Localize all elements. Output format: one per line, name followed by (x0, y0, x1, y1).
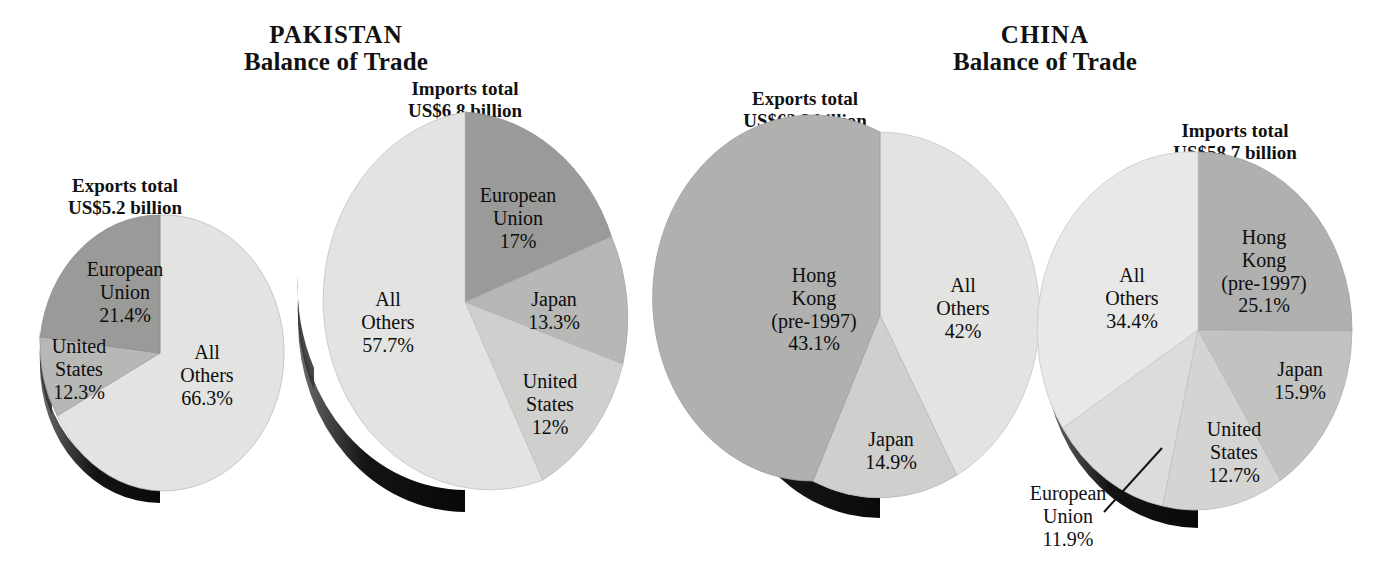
china-imports-label-european-union: European Union 11.9% (1000, 482, 1136, 550)
label-line-2: States (28, 358, 130, 381)
china-exports-label-hong-kong: Hong Kong (pre-1997) 43.1% (742, 264, 886, 355)
china-title-subtitle: Balance of Trade (865, 49, 1225, 76)
pakistan-title: PAKISTAN Balance of Trade (156, 22, 516, 75)
label-line-1: Hong (742, 264, 886, 287)
label-line-1: European (1000, 482, 1136, 505)
label-line-1: United (496, 370, 604, 393)
label-line-2: States (496, 393, 604, 416)
china-exports-label-japan: Japan 14.9% (836, 428, 946, 474)
label-line-2: Kong (1190, 249, 1338, 272)
label-line-2: Others (1074, 287, 1190, 310)
pakistan-exports-label-all-others: All Others 66.3% (154, 341, 260, 409)
pakistan-exports-total-caption: Exports total US$5.2 billion (10, 175, 240, 220)
pakistan-imports-label-japan: Japan 13.3% (502, 288, 606, 334)
label-value: 14.9% (836, 451, 946, 474)
label-value: 12.7% (1178, 464, 1290, 487)
label-value: 43.1% (742, 332, 886, 355)
label-line-3: (pre-1997) (1190, 272, 1338, 295)
label-line-1: United (1178, 418, 1290, 441)
label-line-2: Others (908, 297, 1018, 320)
label-line-1: All (330, 288, 446, 311)
pakistan-imports-label-all-others: All Others 57.7% (330, 288, 446, 356)
pakistan-imports-label-european-union: European Union 17% (454, 184, 582, 252)
china-title: CHINA Balance of Trade (865, 22, 1225, 75)
china-exports-label-all-others: All Others 42% (908, 274, 1018, 342)
pakistan-exports-label-united-states: United States 12.3% (28, 335, 130, 403)
label-value: 66.3% (154, 387, 260, 410)
label-line-1: All (908, 274, 1018, 297)
infographic-canvas: PAKISTAN Balance of Trade CHINA Balance … (0, 0, 1383, 586)
china-imports-label-all-others: All Others 34.4% (1074, 264, 1190, 332)
label-value: 34.4% (1074, 310, 1190, 333)
label-value: 17% (454, 230, 582, 253)
label-line-1: All (1074, 264, 1190, 287)
label-value: 25.1% (1190, 294, 1338, 317)
label-value: 42% (908, 320, 1018, 343)
label-line-2: Others (330, 311, 446, 334)
label-line-1: Japan (502, 288, 606, 311)
label-line-2: States (1178, 441, 1290, 464)
china-imports-label-hong-kong: Hong Kong (pre-1997) 25.1% (1190, 226, 1338, 317)
pakistan-exports-label-european-union: European Union 21.4% (60, 258, 190, 326)
pakistan-title-subtitle: Balance of Trade (156, 49, 516, 76)
label-line-2: Union (454, 207, 582, 230)
label-value: 11.9% (1000, 528, 1136, 551)
label-line-3: (pre-1997) (742, 310, 886, 333)
label-line-2: Union (60, 281, 190, 304)
china-imports-total-line1: Imports total (1110, 120, 1360, 142)
label-value: 15.9% (1244, 381, 1356, 404)
label-line-2: Union (1000, 505, 1136, 528)
label-value: 57.7% (330, 334, 446, 357)
pakistan-imports-total-line1: Imports total (350, 78, 580, 100)
china-imports-label-japan: Japan 15.9% (1244, 358, 1356, 404)
label-line-1: Japan (836, 428, 946, 451)
label-line-1: All (154, 341, 260, 364)
china-title-country: CHINA (865, 22, 1225, 49)
label-line-1: European (454, 184, 582, 207)
pakistan-title-country: PAKISTAN (156, 22, 516, 49)
label-line-2: Kong (742, 287, 886, 310)
label-line-1: European (60, 258, 190, 281)
label-value: 13.3% (502, 311, 606, 334)
label-line-1: United (28, 335, 130, 358)
pakistan-imports-label-united-states: United States 12% (496, 370, 604, 438)
label-line-2: Others (154, 364, 260, 387)
label-line-1: Hong (1190, 226, 1338, 249)
label-value: 12% (496, 416, 604, 439)
china-imports-label-united-states: United States 12.7% (1178, 418, 1290, 486)
label-value: 21.4% (60, 304, 190, 327)
label-value: 12.3% (28, 381, 130, 404)
label-line-1: Japan (1244, 358, 1356, 381)
china-exports-total-line1: Exports total (680, 88, 930, 110)
pakistan-exports-total-line1: Exports total (10, 175, 240, 197)
